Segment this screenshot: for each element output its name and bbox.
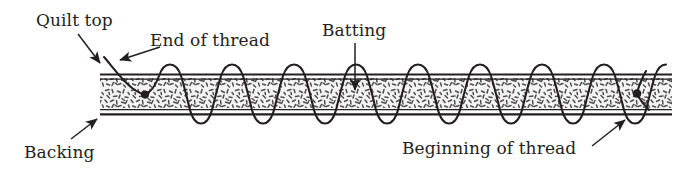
backing-layer — [100, 110, 672, 115]
label-end-of-thread: End of thread — [150, 30, 270, 50]
label-beginning-of-thread: Beginning of thread — [402, 138, 576, 158]
label-quilt-top: Quilt top — [36, 10, 113, 30]
backing-leader — [71, 119, 97, 139]
quilt-cross-section-diagram: Quilt top End of thread Batting Backing … — [0, 0, 674, 178]
label-batting: Batting — [322, 20, 386, 40]
thread-beginning-knot — [633, 89, 642, 98]
thread-end-knot — [141, 90, 149, 98]
quilt-top-leader — [78, 34, 100, 63]
label-backing: Backing — [24, 142, 94, 162]
beginning-of-thread-leader — [592, 120, 625, 146]
